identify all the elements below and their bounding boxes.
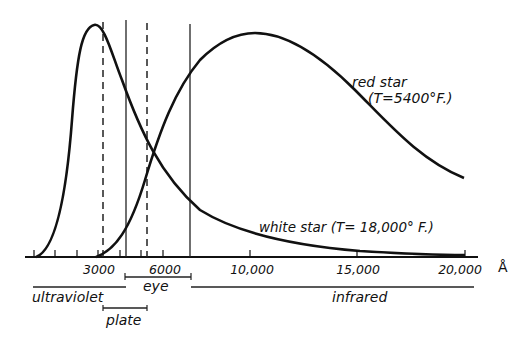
infrared-label: infrared (332, 289, 387, 305)
eye-label: eye (143, 278, 169, 294)
plate-label: plate (106, 312, 141, 328)
ultraviolet-label: ultraviolet (32, 289, 103, 305)
